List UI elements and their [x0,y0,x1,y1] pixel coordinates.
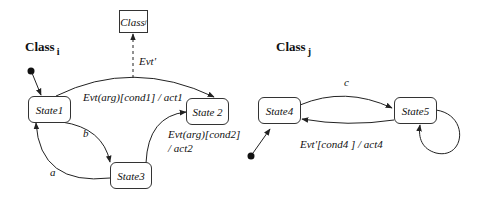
class-i-title-text: Class [25,39,55,54]
state3-label: State3 [117,170,145,182]
transition-state5-state4 [302,119,394,123]
transition-label-b: b [83,128,89,139]
initial-transition-j [253,129,270,153]
class-j-box: Classj [119,10,148,33]
class-j-box-subscript: j [145,18,147,26]
transition-label-state1-state2: Evt(arg)[cond1] / act1 [83,92,183,103]
class-j-title-subscript: j [308,46,311,57]
transition-state3-state1 [36,123,110,179]
class-j-title-text: Class [276,39,306,54]
class-i-title-subscript: i [57,46,60,57]
transition-label-state3-state2-line2: / act2 [168,143,193,154]
state1-label: State1 [36,104,64,116]
transition-label-state5-state4: Evt'[cond4 ] / act4 [300,139,383,150]
transition-label-c: c [344,77,349,88]
class-j-box-label: Class [120,16,144,28]
initial-state-dot-i [28,68,35,75]
state4-label: State4 [266,105,294,117]
class-i-title: Classi [25,40,59,57]
state-state5[interactable]: State5 [394,97,437,124]
initial-state-dot-j [248,153,255,160]
state2-label: State 2 [192,106,222,118]
transition-label-state3-state2-line1: Evt(arg)[cond2] [168,129,240,140]
initial-transition-i [32,73,41,95]
state-state2[interactable]: State 2 [186,98,229,125]
state-state3[interactable]: State3 [110,162,152,189]
transition-label-a: a [50,167,56,178]
class-j-title: Classj [276,40,311,57]
state5-label: State5 [402,105,430,117]
state-state4[interactable]: State4 [258,97,301,124]
state-state1[interactable]: State1 [28,96,71,123]
event-send-label: Evt' [139,56,156,67]
transition-state4-state5 [300,96,392,108]
